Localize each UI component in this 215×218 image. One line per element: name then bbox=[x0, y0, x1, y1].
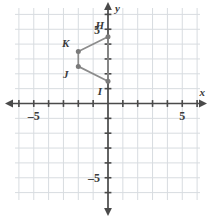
vertex-point-j bbox=[76, 64, 81, 69]
vertex-label-j: J bbox=[62, 68, 69, 80]
coordinate-plane-figure: –555–5 xy HKJI bbox=[0, 0, 215, 218]
vertex-point-k bbox=[76, 49, 81, 54]
y-tick-label-negative-5: –5 bbox=[87, 171, 100, 185]
x-tick-label-negative-5: –5 bbox=[27, 109, 40, 123]
x-tick-label-positive-5: 5 bbox=[179, 109, 185, 123]
vertex-point-i bbox=[106, 79, 111, 84]
vertex-label-k: K bbox=[61, 37, 70, 49]
y-axis-name-label: y bbox=[113, 2, 120, 14]
vertex-label-h: H bbox=[95, 19, 105, 31]
coordinate-plane-svg: –555–5 xy HKJI bbox=[0, 0, 215, 218]
vertex-point-h bbox=[106, 34, 111, 39]
x-axis-name-label: x bbox=[199, 86, 206, 98]
vertex-label-i: I bbox=[97, 85, 103, 97]
